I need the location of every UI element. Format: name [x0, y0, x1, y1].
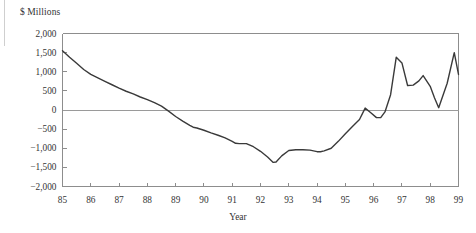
x-axis-title: Year — [0, 211, 476, 223]
x-tick-label: 88 — [135, 195, 159, 205]
chart-figure: $ Millions 2,0001,5001,0005000−500−1,000… — [0, 0, 476, 233]
x-tick-label: 98 — [418, 195, 442, 205]
x-tick-label: 92 — [249, 195, 273, 205]
y-tick-label: 1,000 — [11, 67, 57, 77]
x-tick-label: 97 — [390, 195, 414, 205]
y-tick-label: 1,500 — [11, 48, 57, 58]
x-tick-label: 85 — [51, 195, 75, 205]
y-tick-label: −1,500 — [11, 162, 57, 172]
x-tick-label: 90 — [192, 195, 216, 205]
y-tick-label: 500 — [11, 86, 57, 96]
y-tick-label: −2,000 — [11, 182, 57, 192]
x-tick-label: 94 — [305, 195, 329, 205]
x-tick-label: 86 — [79, 195, 103, 205]
y-tick-label: −500 — [11, 124, 57, 134]
series-line — [63, 51, 459, 163]
x-tick-label: 95 — [333, 195, 357, 205]
data-series — [63, 51, 459, 163]
y-tick-label: −1,000 — [11, 143, 57, 153]
axis-ticks — [63, 53, 431, 187]
x-tick-label: 93 — [277, 195, 301, 205]
x-tick-label: 96 — [362, 195, 386, 205]
y-tick-label: 2,000 — [11, 29, 57, 39]
x-tick-label: 91 — [220, 195, 244, 205]
x-tick-label: 87 — [107, 195, 131, 205]
x-tick-label: 89 — [164, 195, 188, 205]
x-tick-label: 99 — [447, 195, 471, 205]
y-tick-label: 0 — [11, 105, 57, 115]
